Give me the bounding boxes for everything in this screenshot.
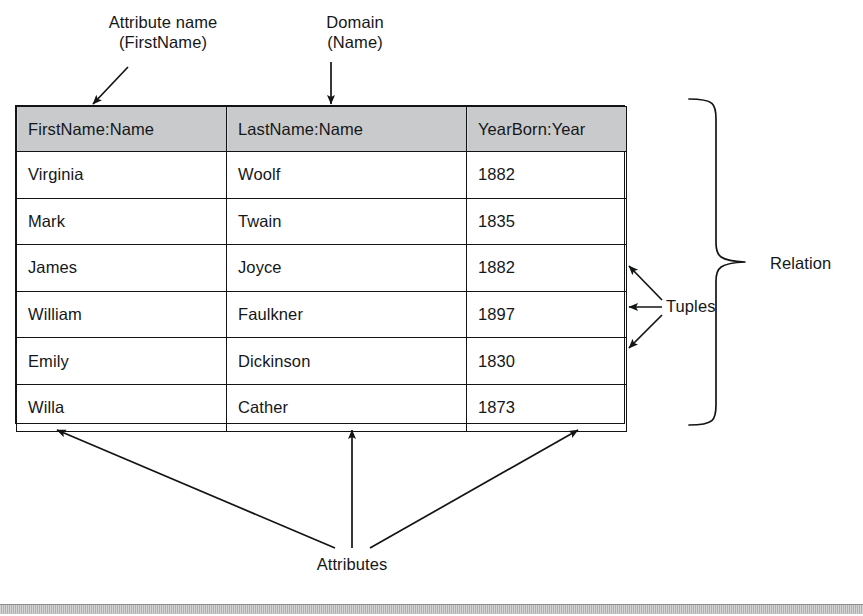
figure-canvas: Attribute name (FirstName) Domain (Name)…	[0, 0, 863, 616]
cell-firstname: Mark	[17, 198, 227, 245]
cell-lastname: Dickinson	[227, 338, 467, 385]
label-relation: Relation	[770, 253, 831, 273]
cell-firstname: William	[17, 291, 227, 338]
cell-yearborn: 1830	[467, 338, 627, 385]
arrow-tuple-upper	[629, 266, 662, 300]
column-header-firstname: FirstName:Name	[17, 107, 227, 152]
table-row: Emily Dickinson 1830	[17, 338, 627, 385]
table-row: William Faulkner 1897	[17, 291, 627, 338]
arrow-tuple-lower	[629, 315, 662, 348]
label-domain-line1: Domain	[290, 12, 420, 32]
label-attribute-name-line1: Attribute name	[68, 12, 258, 32]
cell-lastname: Woolf	[227, 152, 467, 199]
cell-yearborn: 1882	[467, 245, 627, 292]
column-header-lastname: LastName:Name	[227, 107, 467, 152]
arrow-attribute-name	[93, 67, 128, 104]
cell-yearborn: 1882	[467, 152, 627, 199]
cell-yearborn: 1835	[467, 198, 627, 245]
cell-lastname: Twain	[227, 198, 467, 245]
label-domain: Domain (Name)	[290, 12, 420, 52]
relation-brace	[689, 99, 745, 425]
label-domain-line2: (Name)	[290, 32, 420, 52]
cell-lastname: Joyce	[227, 245, 467, 292]
label-attributes: Attributes	[292, 554, 412, 574]
relation-table-head: FirstName:Name LastName:Name YearBorn:Ye…	[17, 107, 627, 152]
cell-firstname: Emily	[17, 338, 227, 385]
table-row: Willa Cather 1873	[17, 384, 627, 431]
label-attribute-name-line2: (FirstName)	[68, 32, 258, 52]
relation-table-grid: FirstName:Name LastName:Name YearBorn:Ye…	[16, 106, 627, 432]
page-bottom-rule	[0, 604, 863, 614]
label-attribute-name: Attribute name (FirstName)	[68, 12, 258, 52]
header-row: FirstName:Name LastName:Name YearBorn:Ye…	[17, 107, 627, 152]
relation-table: FirstName:Name LastName:Name YearBorn:Ye…	[15, 105, 625, 424]
arrow-attribute-col1	[57, 430, 335, 548]
cell-yearborn: 1873	[467, 384, 627, 431]
cell-lastname: Cather	[227, 384, 467, 431]
cell-lastname: Faulkner	[227, 291, 467, 338]
relation-table-body: Virginia Woolf 1882 Mark Twain 1835 Jame…	[17, 152, 627, 432]
table-row: Mark Twain 1835	[17, 198, 627, 245]
cell-firstname: James	[17, 245, 227, 292]
table-row: James Joyce 1882	[17, 245, 627, 292]
arrow-attribute-col3	[370, 430, 578, 548]
label-tuples: Tuples	[666, 296, 716, 316]
cell-firstname: Willa	[17, 384, 227, 431]
table-row: Virginia Woolf 1882	[17, 152, 627, 199]
cell-firstname: Virginia	[17, 152, 227, 199]
column-header-yearborn: YearBorn:Year	[467, 107, 627, 152]
cell-yearborn: 1897	[467, 291, 627, 338]
